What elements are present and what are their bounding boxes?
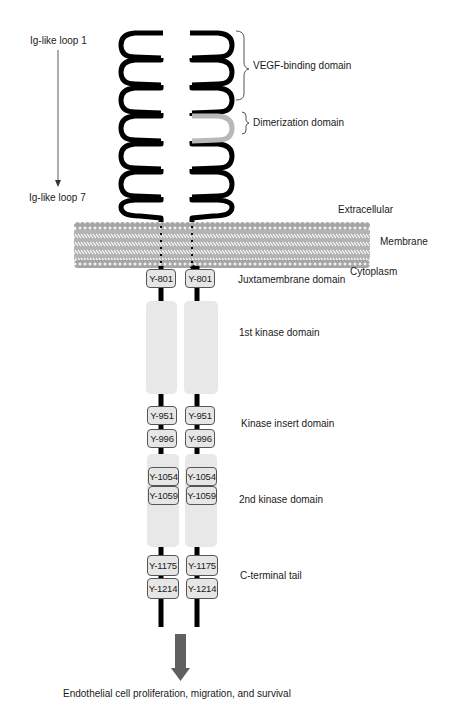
label-dimerization-domain: Dimerization domain (253, 117, 344, 129)
dimerization-loop (192, 116, 232, 141)
label-cytoplasm: Cytoplasm (350, 266, 397, 278)
tyrosine-y996-left: Y-996 (147, 429, 177, 448)
tyrosine-y1059-right: Y-1059 (186, 486, 217, 505)
dimerization-bracket (242, 112, 249, 134)
membrane-bilayer (74, 222, 370, 268)
tyrosine-y951-left: Y-951 (147, 406, 177, 425)
vegf-bracket (236, 31, 249, 100)
tyrosine-y1054-left: Y-1054 (148, 467, 179, 486)
label-ig-loop-1: Ig-like loop 1 (30, 35, 87, 47)
tyrosine-y801-left: Y-801 (146, 269, 176, 288)
left-chain-loops (121, 33, 163, 225)
kinase1-block-right (184, 301, 218, 394)
label-2nd-kinase-domain: 2nd kinase domain (239, 494, 323, 506)
tyrosine-y1175-left: Y-1175 (147, 555, 179, 576)
label-membrane: Membrane (380, 236, 428, 248)
tyrosine-y1054-right: Y-1054 (186, 467, 217, 486)
tyrosine-y951-right: Y-951 (185, 406, 215, 425)
tyrosine-y996-right: Y-996 (185, 429, 215, 448)
outcome-text: Endothelial cell proliferation, migratio… (63, 688, 291, 700)
signal-arrow (171, 634, 190, 681)
label-kinase-insert-domain: Kinase insert domain (241, 418, 334, 430)
label-vegf-binding-domain: VEGF-binding domain (253, 60, 351, 72)
kinase1-block-left (146, 301, 177, 394)
tyrosine-y1175-right: Y-1175 (186, 555, 218, 576)
label-ig-loop-7: Ig-like loop 7 (29, 192, 86, 204)
right-chain-loops (190, 33, 232, 225)
tyrosine-y1214-left: Y-1214 (147, 578, 179, 599)
tyrosine-y801-right: Y-801 (185, 269, 215, 288)
ig-loop-arrow (55, 50, 61, 187)
tyrosine-y1059-left: Y-1059 (148, 486, 179, 505)
label-1st-kinase-domain: 1st kinase domain (239, 327, 320, 339)
label-c-terminal-tail: C-terminal tail (240, 570, 302, 582)
label-juxtamembrane-domain: Juxtamembrane domain (238, 274, 345, 286)
receptor-diagram (0, 0, 452, 707)
tyrosine-y1214-right: Y-1214 (186, 578, 218, 599)
label-extracellular: Extracellular (338, 204, 393, 216)
